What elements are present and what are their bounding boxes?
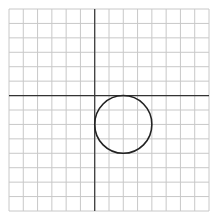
grid-lines bbox=[9, 9, 209, 211]
coordinate-plane bbox=[0, 0, 217, 220]
